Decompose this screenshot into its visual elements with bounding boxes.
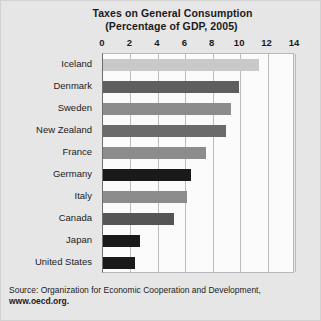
chart-subtitle: (Percentage of GDP, 2005) <box>1 20 321 33</box>
bar-sweden <box>103 103 231 115</box>
bar-row <box>103 142 295 164</box>
bar-denmark <box>103 81 239 93</box>
bar-iceland <box>103 59 259 71</box>
bar-row <box>103 230 295 252</box>
bar-row <box>103 54 295 76</box>
category-label-france: France <box>1 141 97 163</box>
x-tick-label-4: 4 <box>154 37 159 49</box>
bar-row <box>103 98 295 120</box>
category-label-united-states: United States <box>1 251 97 273</box>
bar-new-zealand <box>103 125 226 137</box>
bars-layer <box>103 54 293 272</box>
bar-japan <box>103 235 140 247</box>
category-label-italy: Italy <box>1 185 97 207</box>
bar-row <box>103 76 295 98</box>
chart-title: Taxes on General Consumption <box>1 7 321 20</box>
bar-row <box>103 252 295 274</box>
category-label-denmark: Denmark <box>1 75 97 97</box>
bar-row <box>103 208 295 230</box>
x-axis-tick-labels: 02468101214 <box>102 37 294 51</box>
source-note: Source: Organization for Economic Cooper… <box>9 285 309 307</box>
chart-figure: Taxes on General Consumption (Percentage… <box>0 0 321 321</box>
x-tick-label-12: 12 <box>261 37 272 49</box>
x-tick-label-0: 0 <box>99 37 104 49</box>
x-tick-label-6: 6 <box>182 37 187 49</box>
category-label-iceland: Iceland <box>1 53 97 75</box>
bar-row <box>103 186 295 208</box>
category-label-new-zealand: New Zealand <box>1 119 97 141</box>
x-tick-label-14: 14 <box>289 37 300 49</box>
source-url: www.oecd.org. <box>9 296 69 306</box>
x-tick-label-8: 8 <box>209 37 214 49</box>
bar-canada <box>103 213 174 225</box>
x-tick-label-10: 10 <box>234 37 245 49</box>
x-tick-label-2: 2 <box>127 37 132 49</box>
category-label-sweden: Sweden <box>1 97 97 119</box>
category-label-canada: Canada <box>1 207 97 229</box>
gridline-14 <box>295 54 296 272</box>
bar-row <box>103 120 295 142</box>
bar-france <box>103 147 206 159</box>
category-label-japan: Japan <box>1 229 97 251</box>
bar-row <box>103 164 295 186</box>
bar-germany <box>103 169 191 181</box>
source-text: Source: Organization for Economic Cooper… <box>9 285 261 295</box>
category-axis-labels: IcelandDenmarkSwedenNew ZealandFranceGer… <box>1 53 97 273</box>
chart-title-block: Taxes on General Consumption (Percentage… <box>1 7 321 33</box>
bar-italy <box>103 191 187 203</box>
bar-united-states <box>103 257 135 269</box>
category-label-germany: Germany <box>1 163 97 185</box>
plot-area <box>102 53 294 273</box>
